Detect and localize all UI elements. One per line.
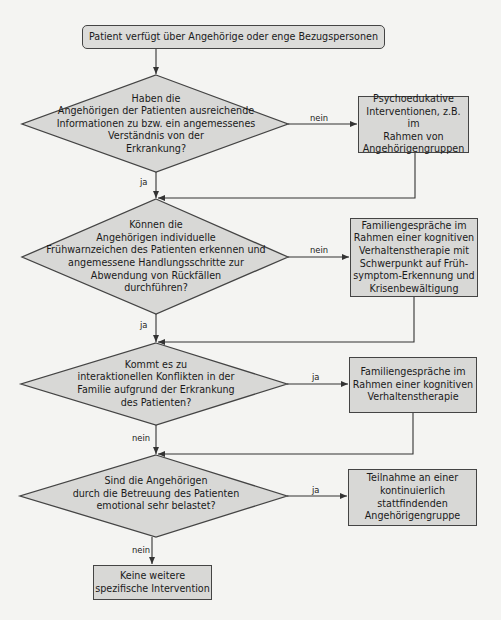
end-node-label: Keine weitere spezifische Intervention (95, 570, 210, 595)
decision-4-text: Sind die Angehörigen durch die Betreuung… (50, 473, 262, 515)
decision-4-label: Sind die Angehörigen durch die Betreuung… (73, 475, 240, 513)
edge-label-d1-down: ja (140, 177, 147, 187)
decision-2-label: Können die Angehörigen individuelle Früh… (46, 219, 265, 295)
connector-box2-return (158, 297, 414, 342)
edge-label-d2-side: nein (310, 245, 328, 255)
intervention-4-label: Teilnahme an einer kontinuierlich stattf… (365, 472, 460, 522)
edge-label-d2-down: ja (140, 320, 147, 330)
intervention-box-2: Familiengespräche im Rahmen einer kognit… (350, 218, 478, 297)
decision-3-text: Kommt es zu interaktionellen Konflikten … (50, 357, 262, 411)
edge-label-d3-down: nein (132, 433, 150, 443)
end-node: Keine weitere spezifische Intervention (93, 565, 212, 600)
edge-label-d3-side: ja (312, 372, 319, 382)
intervention-box-1: Psychoedukative Interventionen, z.B. im … (358, 96, 469, 153)
decision-1-label: Haben die Angehörigen der Patienten ausr… (57, 93, 256, 156)
decision-1-text: Haben die Angehörigen der Patienten ausr… (40, 85, 272, 163)
intervention-2-label: Familiengespräche im Rahmen einer kognit… (353, 220, 474, 296)
connector-box3-return (158, 413, 413, 454)
intervention-box-4: Teilnahme an einer kontinuierlich stattf… (348, 469, 477, 526)
intervention-box-3: Familiengespräche im Rahmen einer kognit… (349, 357, 477, 413)
start-node-label: Patient verfügt über Angehörige oder eng… (89, 31, 378, 44)
intervention-3-label: Familiengespräche im Rahmen einer kognit… (353, 366, 473, 404)
decision-3-label: Kommt es zu interaktionellen Konflikten … (77, 359, 234, 409)
decision-2-text: Können die Angehörigen individuelle Früh… (30, 215, 282, 299)
intervention-1-label: Psychoedukative Interventionen, z.B. im … (359, 93, 468, 156)
start-node: Patient verfügt über Angehörige oder eng… (82, 25, 385, 49)
edge-label-d4-side: ja (312, 485, 319, 495)
edge-label-d1-side: nein (310, 113, 328, 123)
edge-label-d4-down: nein (132, 545, 150, 555)
